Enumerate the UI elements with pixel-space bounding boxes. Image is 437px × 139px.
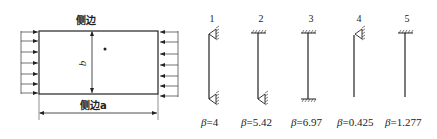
case-5-beta: β=1.277 (385, 117, 421, 128)
top-edge-label: 侧边 (76, 15, 96, 26)
pin-support-icon (258, 91, 268, 105)
case-3-number: 3 (304, 13, 318, 24)
pin-support-icon (209, 91, 219, 105)
case-1-number: 1 (205, 13, 219, 24)
case-2-column (251, 30, 268, 105)
case-3-column (301, 30, 316, 102)
case-2-number: 2 (254, 13, 268, 24)
pin-support-icon (355, 26, 365, 40)
case-1-column (209, 26, 219, 105)
case-4-column (354, 26, 365, 97)
fixed-support-icon (398, 30, 413, 33)
case-5-column (398, 30, 413, 97)
dimension-b-label: b (77, 61, 88, 67)
bottom-edge-label: 侧边a (80, 100, 107, 111)
left-compression-load (21, 31, 38, 94)
case-1-beta: β=4 (201, 117, 218, 128)
case-5-number: 5 (400, 13, 414, 24)
case-2-beta: β=5.42 (241, 117, 272, 128)
fixed-support-icon (251, 30, 266, 33)
center-dot (104, 48, 107, 51)
fixed-support-icon (301, 99, 316, 102)
case-4-number: 4 (352, 13, 366, 24)
right-compression-load (160, 31, 178, 97)
pin-support-icon (209, 26, 219, 40)
case-4-beta: β=0.425 (337, 117, 373, 128)
case-3-beta: β=6.97 (291, 117, 322, 128)
fixed-support-icon (301, 30, 316, 33)
plate-rectangle (39, 31, 158, 94)
